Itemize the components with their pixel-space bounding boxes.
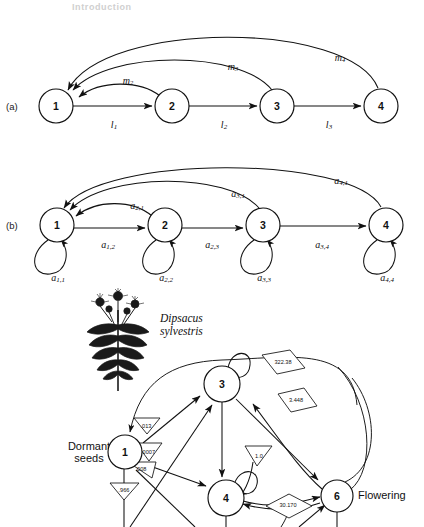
panel-b-graph: 1 2 3 4 a1,2 a2,3 a3,4 a2,1 a3,1 a4,1 a1… xyxy=(35,168,403,284)
node-lc-4-label: 4 xyxy=(223,492,229,504)
arc-outer-right-1 xyxy=(345,378,371,482)
life-cycle-graph: .013 .0007 .008 .966 1.0 322.38 3.448 30… xyxy=(108,350,371,527)
edge-lc-3-6 xyxy=(236,399,318,480)
node-a-1-label: 1 xyxy=(53,100,59,112)
edge-a-2-1 xyxy=(79,84,160,97)
value-label-30170: 30.170 xyxy=(279,502,296,508)
self-loop-b-3 xyxy=(241,240,273,274)
value-label-966: .966 xyxy=(119,487,130,493)
edge-label-m4: m4 xyxy=(335,52,346,65)
value-label-32238: 322.38 xyxy=(274,359,291,365)
value-label-013: .013 xyxy=(141,423,152,429)
edge-label-m3: m3 xyxy=(228,61,239,74)
edge-label-a41: a4,1 xyxy=(334,175,348,188)
self-label-a33: a3,3 xyxy=(257,272,271,285)
value-label-0007: .0007 xyxy=(141,449,155,455)
value-label-10: 1.0 xyxy=(255,453,263,459)
edge-label-a23: a2,3 xyxy=(205,239,219,252)
edge-a-4-1 xyxy=(68,37,378,90)
node-lc-3-label: 3 xyxy=(219,378,225,390)
edge-label-a34: a3,4 xyxy=(315,239,329,252)
node-a-2-label: 2 xyxy=(169,100,175,112)
edge-label-a12: a1,2 xyxy=(101,239,115,252)
edge-label-a21: a2,1 xyxy=(130,200,144,213)
node-a-3-label: 3 xyxy=(274,100,280,112)
value-label-008: .008 xyxy=(136,466,147,472)
edge-label-l3: l3 xyxy=(326,119,333,132)
edge-lc-1-4 xyxy=(150,466,206,486)
node-lc-6-label: 6 xyxy=(334,490,340,502)
self-label-a44: a4,4 xyxy=(380,272,394,285)
figure-page: Introduction (a) (b) xyxy=(0,0,424,527)
value-label-3448: 3.448 xyxy=(289,397,303,403)
node-a-4-label: 4 xyxy=(378,100,384,112)
node-b-1-label: 1 xyxy=(54,219,60,231)
self-label-a11: a1,1 xyxy=(51,272,65,285)
node-b-2-label: 2 xyxy=(162,219,168,231)
edge-label-l1: l1 xyxy=(111,119,117,132)
self-loop-b-1 xyxy=(35,240,67,274)
node-b-3-label: 3 xyxy=(260,219,266,231)
self-loop-b-2 xyxy=(143,240,175,274)
self-label-a22: a2,2 xyxy=(159,272,173,285)
panel-a-graph: 1 2 3 4 l1 l2 l3 m2 m3 m4 xyxy=(39,37,398,131)
edge-label-l2: l2 xyxy=(221,119,228,132)
node-lc-1-label: 1 xyxy=(122,446,128,458)
figure-canvas: 1 2 3 4 l1 l2 l3 m2 m3 m4 xyxy=(0,0,424,527)
node-b-4-label: 4 xyxy=(383,219,389,231)
edge-label-m2: m2 xyxy=(123,75,134,88)
arc-outer-to-node1 xyxy=(130,357,357,432)
edge-label-a31: a3,1 xyxy=(231,188,245,201)
self-loop-b-4 xyxy=(364,240,396,274)
